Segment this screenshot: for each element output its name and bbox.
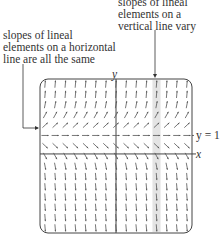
lineal-element: [65, 101, 67, 108]
lineal-element: [125, 101, 127, 108]
lineal-element: [176, 193, 178, 200]
lineal-element: [85, 204, 87, 211]
lineal-element: [55, 163, 57, 170]
lineal-element: [42, 123, 47, 128]
lineal-element: [146, 101, 148, 108]
lineal-element: [65, 224, 67, 231]
lineal-element: [143, 135, 150, 137]
lineal-element: [105, 193, 107, 200]
lineal-element: [186, 193, 188, 200]
lineal-element: [74, 112, 77, 118]
lineal-element: [133, 135, 140, 137]
lineal-element: [136, 91, 138, 98]
lineal-element: [176, 163, 178, 170]
lineal-element: [44, 173, 46, 180]
lineal-element: [146, 183, 148, 190]
lineal-element: [125, 183, 127, 190]
lineal-element: [176, 214, 178, 221]
lineal-element: [52, 135, 59, 137]
lineal-element: [55, 224, 57, 231]
lineal-element: [53, 123, 58, 128]
lineal-element: [75, 173, 77, 180]
lineal-element: [95, 173, 97, 180]
lineal-element: [124, 112, 127, 118]
lineal-element: [75, 204, 77, 211]
lineal-element: [136, 81, 138, 88]
lineal-element: [176, 224, 178, 231]
lineal-element: [146, 163, 148, 170]
lineal-element: [105, 163, 107, 170]
lineal-element: [174, 143, 179, 148]
lineal-element: [176, 183, 178, 190]
lineal-element: [136, 101, 138, 108]
lineal-element: [134, 143, 139, 148]
lineal-element: [95, 101, 97, 108]
lineal-element: [105, 204, 107, 211]
lineal-element: [43, 112, 46, 118]
lineal-element: [146, 81, 148, 88]
lineal-element: [186, 214, 188, 221]
lineal-element: [92, 135, 99, 137]
lineal-element: [124, 143, 129, 148]
lineal-element: [166, 101, 168, 108]
lineal-element: [136, 193, 138, 200]
lineal-element: [65, 163, 67, 170]
lineal-element: [125, 91, 127, 98]
lineal-element: [95, 163, 97, 170]
lineal-element: [176, 81, 178, 88]
lineal-element: [65, 173, 67, 180]
lineal-element: [136, 173, 138, 180]
lineal-element: [55, 101, 57, 108]
lineal-element: [144, 143, 149, 148]
lineal-element: [85, 214, 87, 221]
lineal-element: [95, 183, 97, 190]
lineal-element: [72, 135, 79, 137]
lineal-element: [186, 183, 188, 190]
lineal-element: [85, 193, 87, 200]
lineal-element: [164, 143, 169, 148]
lineal-element: [135, 112, 138, 118]
lineal-element: [163, 135, 170, 137]
lineal-element: [125, 224, 127, 231]
lineal-element: [95, 193, 97, 200]
lineal-element: [93, 123, 98, 128]
lineal-element: [186, 173, 188, 180]
lineal-element: [105, 81, 107, 88]
lineal-element: [146, 224, 148, 231]
lineal-element: [73, 143, 78, 148]
lineal-element: [146, 214, 148, 221]
lineal-element: [103, 143, 108, 148]
lineal-element: [146, 91, 148, 98]
lineal-element: [146, 193, 148, 200]
lineal-element: [166, 183, 168, 190]
lineal-element: [63, 143, 68, 148]
lineal-element: [124, 123, 129, 128]
lineal-element: [95, 204, 97, 211]
lineal-element: [95, 81, 97, 88]
lineal-element: [55, 214, 57, 221]
lineal-element: [55, 81, 57, 88]
lineal-element: [75, 163, 77, 170]
lineal-element: [85, 183, 87, 190]
lineal-element: [83, 143, 88, 148]
lineal-element: [62, 135, 69, 137]
lineal-element: [105, 214, 107, 221]
lineal-element: [144, 123, 149, 128]
lineal-element: [93, 143, 98, 148]
lineal-element: [166, 173, 168, 180]
lineal-element: [105, 173, 107, 180]
lineal-element: [44, 193, 46, 200]
lineal-element: [184, 123, 189, 128]
lineal-element: [75, 91, 77, 98]
lineal-element: [186, 224, 188, 231]
lineal-element: [44, 204, 46, 211]
lineal-element: [85, 101, 87, 108]
lineal-element: [136, 204, 138, 211]
lineal-element: [186, 91, 188, 98]
lineal-element: [176, 101, 178, 108]
lineal-element: [185, 112, 188, 118]
lineal-element: [63, 123, 68, 128]
lineal-element: [41, 135, 48, 137]
lineal-element: [85, 224, 87, 231]
lineal-element: [64, 112, 67, 118]
